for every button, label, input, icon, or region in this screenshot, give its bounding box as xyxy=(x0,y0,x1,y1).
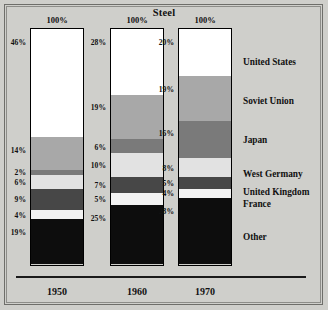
percent-label-1970-france: 4% xyxy=(150,189,174,198)
x-axis-tick-1950: 1950 xyxy=(27,286,87,297)
percent-label-1960-united-kingdom: 7% xyxy=(82,181,106,190)
legend-label-west-germany: West Germany xyxy=(243,169,303,179)
x-axis-tick-1970: 1970 xyxy=(175,286,235,297)
percent-label-1970-japan: 16% xyxy=(150,129,174,138)
legend-label-japan: Japan xyxy=(243,135,267,145)
plot-area: Steel 100%1950100%1960100%1970 46%14%2%6… xyxy=(0,0,328,310)
legend-label-united-states: United States xyxy=(243,57,296,67)
bar-segment-1970-other[interactable] xyxy=(179,198,231,264)
bar-segment-1950-united-states[interactable] xyxy=(31,29,83,137)
legend-label-united-kingdom: United Kingdom xyxy=(243,187,309,197)
steel-stacked-bar-chart-figure: Steel 100%1950100%1960100%1970 46%14%2%6… xyxy=(0,0,328,310)
legend-label-other: Other xyxy=(243,232,267,242)
bar-segment-1950-united-kingdom[interactable] xyxy=(31,189,83,210)
percent-label-1950-japan: 2% xyxy=(2,168,26,177)
percent-label-1950-france: 4% xyxy=(2,211,26,220)
x-axis-tick-1960: 1960 xyxy=(107,286,167,297)
bar-segment-1970-west-germany[interactable] xyxy=(179,158,231,177)
bar-segment-1950-other[interactable] xyxy=(31,219,83,264)
bar-stack-1950[interactable] xyxy=(30,28,84,266)
legend-label-france: France xyxy=(243,199,271,209)
percent-label-1970-soviet-union: 19% xyxy=(150,85,174,94)
bar-total-label-1950: 100% xyxy=(30,15,84,25)
percent-label-1950-other: 19% xyxy=(2,228,26,237)
legend-label-soviet-union: Soviet Union xyxy=(243,96,294,106)
bar-segment-1970-soviet-union[interactable] xyxy=(179,76,231,121)
bar-total-label-1970: 100% xyxy=(178,15,232,25)
percent-label-1950-united-kingdom: 9% xyxy=(2,195,26,204)
percent-label-1970-west-germany: 8% xyxy=(150,164,174,173)
bar-segment-1970-japan[interactable] xyxy=(179,121,231,159)
bar-segment-1960-japan[interactable] xyxy=(111,139,163,153)
percent-label-1960-other: 25% xyxy=(82,214,106,223)
bar-total-label-1960: 100% xyxy=(110,15,164,25)
percent-label-1970-other: 28% xyxy=(150,207,174,216)
percent-label-1970-united-kingdom: 5% xyxy=(150,179,174,188)
bar-segment-1970-united-states[interactable] xyxy=(179,29,231,76)
bar-segment-1970-france[interactable] xyxy=(179,189,231,198)
percent-label-1960-united-states: 28% xyxy=(82,38,106,47)
percent-label-1950-soviet-union: 14% xyxy=(2,146,26,155)
bar-segment-1950-west-germany[interactable] xyxy=(31,175,83,189)
percent-label-1950-west-germany: 6% xyxy=(2,178,26,187)
percent-label-1950-united-states: 46% xyxy=(2,38,26,47)
x-axis-line xyxy=(16,276,306,278)
percent-label-1960-france: 5% xyxy=(82,195,106,204)
bar-stack-1970[interactable] xyxy=(178,28,232,266)
percent-label-1960-japan: 6% xyxy=(82,143,106,152)
bar-segment-1970-united-kingdom[interactable] xyxy=(179,177,231,189)
percent-label-1960-west-germany: 10% xyxy=(82,161,106,170)
percent-label-1960-soviet-union: 19% xyxy=(82,103,106,112)
percent-label-1970-united-states: 20% xyxy=(150,38,174,47)
bar-stack-1960[interactable] xyxy=(110,28,164,266)
bar-segment-1950-france[interactable] xyxy=(31,210,83,219)
bar-segment-1950-soviet-union[interactable] xyxy=(31,137,83,170)
